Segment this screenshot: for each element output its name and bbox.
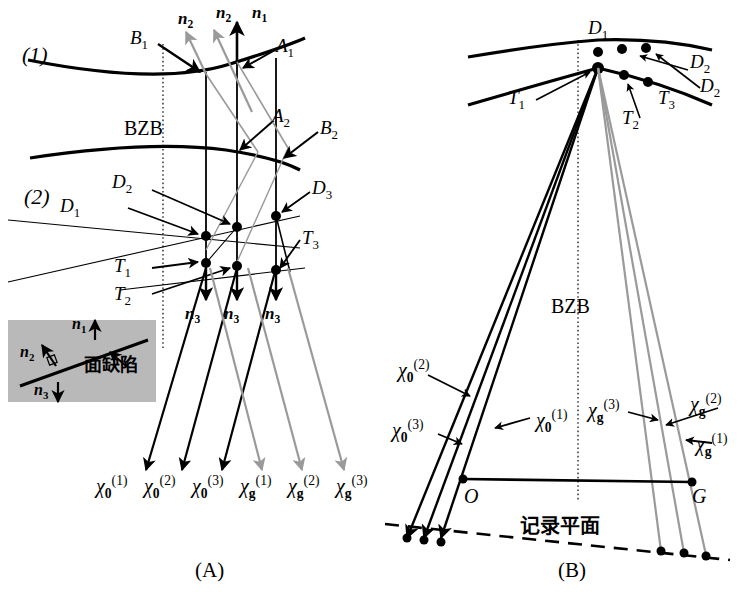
panel-caption-b: (B) [558,560,586,581]
node-b-t3 [643,77,653,87]
wave-label-chig-3: χg(3) [336,474,367,500]
pointer-chi0-1 [495,418,530,428]
point-label-b-d1: D1 [588,18,608,42]
point-label-b-t1: T1 [508,88,525,112]
exit-ray-chi0-3 [222,268,276,470]
node-b-d1 [593,47,603,57]
crystal-surface-curve-2 [30,146,300,170]
wave-label-chig-2: χg(2) [288,474,319,500]
node-d1 [201,231,211,241]
pointer-b2 [284,132,318,158]
node-b-d2a [617,44,627,54]
n3-label-3: n3 [265,305,280,326]
intercept-chig-3 [657,547,666,556]
pointer-d3 [282,192,310,212]
point-label-b-t2: T2 [622,108,639,132]
intercept-chi0-1 [437,538,446,547]
wave-label-b-chig-3: χg(3) [588,398,619,424]
inset-n2-label: n2 [20,344,34,363]
n2-arrow-left [186,32,206,74]
point-label-t1: T1 [114,256,131,280]
recording-plane-label: 记录平面 [520,516,600,536]
og-baseline [463,479,692,482]
n2-arrow-mid [214,30,252,112]
n2-label-mid: n2 [216,4,231,25]
point-label-d3: D3 [312,178,332,202]
exit-ray-chig-3 [288,268,344,470]
gray-ray-c [206,152,258,250]
point-label-b-d2b: D2 [700,76,720,100]
pointer-d2 [152,190,230,224]
wave-label-chi0-2: χ0(2) [144,474,175,500]
intercept-chi0-2 [403,534,412,543]
n3-label-2: n3 [224,305,239,326]
curve-label-2: (2) [24,186,50,208]
pointer-chi0-3 [438,434,462,444]
pointer-a2 [240,122,272,150]
dispersion-line-upper [8,220,300,248]
point-label-d2: D2 [112,172,132,196]
point-label-t3: T3 [302,228,319,252]
wave-label-chi0-3: χ0(3) [192,474,223,500]
figure-canvas: (1) (2) BZB n2 n2 n1 n3 n3 n3 B1 A1 A2 B… [0,0,740,612]
inset-n1-label: n1 [72,316,86,335]
point-label-a2: A2 [272,106,290,130]
point-label-a1: A1 [276,36,294,60]
point-label-b-d2a: D2 [690,52,710,76]
n3-label-1: n3 [185,305,200,326]
intercept-chig-1 [702,552,711,561]
node-connector-2 [206,227,237,263]
pointer-b-d2a [640,56,688,70]
node-b-t2 [619,70,629,80]
point-label-b2: B2 [320,118,338,142]
point-label-b1: B1 [130,28,148,52]
origin-label: O [464,486,478,506]
reflection-label: G [692,486,706,506]
exit-ray-chi0-2 [182,268,237,470]
bzb-label-a: BZB [124,118,163,138]
wave-label-b-chi0-2: χ0(2) [398,358,429,384]
intercept-chig-2 [680,549,689,558]
point-label-b-t3: T3 [658,88,675,112]
n2-label-left: n2 [178,10,193,31]
point-label-t2: T2 [114,284,131,308]
bzb-label-b: BZB [551,296,590,316]
node-b-d2b [641,43,651,53]
panel-caption-a: (A) [195,560,224,581]
inset-defect-label: 面缺陷 [84,356,138,374]
dispersion-line-lower [8,216,300,282]
inset-n3-label: n3 [34,382,48,401]
wave-label-chig-1: χg(1) [240,474,271,500]
point-label-d1: D1 [60,196,80,220]
n1-label-top: n1 [252,4,267,25]
wave-label-chi0-1: χ0(1) [96,474,127,500]
wave-label-b-chig-1: χg(1) [696,432,727,458]
pointer-chi0-2 [428,375,470,396]
figure-vector-layer [0,0,740,612]
wave-label-b-chi0-3: χ0(3) [392,418,423,444]
dispersion-curve-upper [468,40,712,57]
wave-label-b-chig-2: χg(2) [690,392,721,418]
pointer-t1 [152,262,198,268]
intercept-chi0-3 [420,536,429,545]
node-o [459,475,468,484]
wave-label-b-chi0-1: χ0(1) [536,408,567,434]
curve-label-1: (1) [22,44,48,66]
